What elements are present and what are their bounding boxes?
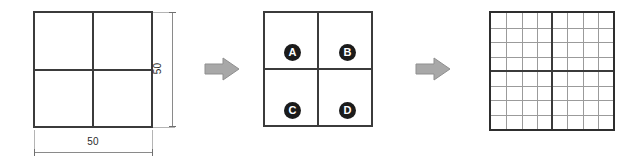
right-arrow-icon — [414, 56, 452, 82]
stage-fine-mesh-square — [489, 11, 615, 131]
labeled-square-horizontal-divider — [265, 68, 371, 70]
width-dimension-label: 50 — [83, 136, 103, 147]
width-tick-right — [152, 149, 153, 156]
height-dimension-label: 50 — [152, 54, 163, 84]
height-dimension-line — [172, 12, 173, 127]
coarse-square-horizontal-divider — [35, 69, 151, 71]
width-dimension-line — [34, 152, 153, 153]
quadrant-label-d: D — [339, 102, 356, 119]
stage-coarse-square: 50 50 — [0, 0, 200, 161]
right-arrow-icon — [203, 56, 241, 82]
quadrant-label-c: C — [284, 102, 301, 119]
labeled-square-outline: A B C D — [263, 11, 373, 127]
height-extension-line-bottom — [153, 127, 175, 128]
quadrant-label-b: B — [339, 44, 356, 61]
height-tick-top — [169, 12, 176, 13]
height-tick-bottom — [169, 126, 176, 127]
coarse-square-outline — [33, 11, 153, 128]
width-tick-left — [34, 149, 35, 156]
quadrant-label-a: A — [284, 44, 301, 61]
fine-square-horizontal-divider — [491, 70, 613, 72]
